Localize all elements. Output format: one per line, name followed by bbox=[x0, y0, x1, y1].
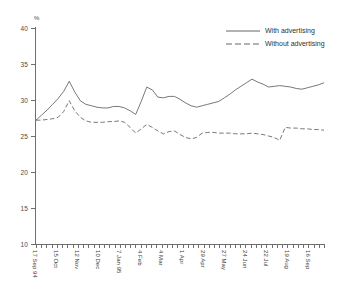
series-line-with-advertising bbox=[36, 79, 324, 120]
legend-label-with-advertising: With advertising bbox=[265, 27, 315, 35]
legend-item-without-advertising: Without advertising bbox=[226, 37, 325, 50]
legend: With advertising Without advertising bbox=[226, 24, 325, 50]
series-line-without-advertising bbox=[36, 101, 324, 141]
line-chart: % 40353025201510 17 Sep 9415 Oct12 Nov10… bbox=[0, 0, 350, 301]
legend-item-with-advertising: With advertising bbox=[226, 24, 325, 37]
legend-swatch-solid-icon bbox=[226, 27, 260, 35]
legend-label-without-advertising: Without advertising bbox=[265, 40, 325, 48]
legend-swatch-dashed-icon bbox=[226, 40, 260, 48]
